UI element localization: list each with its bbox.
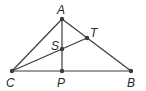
point-S xyxy=(60,47,64,51)
triangle-figure: ABCPST xyxy=(0,0,146,91)
label-S: S xyxy=(51,39,59,53)
label-P: P xyxy=(57,76,65,90)
geometry-diagram: ABCPST xyxy=(0,0,146,91)
point-A xyxy=(60,17,64,21)
label-B: B xyxy=(127,76,135,90)
label-T: T xyxy=(90,26,99,40)
label-A: A xyxy=(56,3,65,17)
segment-CT xyxy=(12,38,87,71)
point-C xyxy=(10,69,14,73)
point-T xyxy=(85,36,89,40)
point-P xyxy=(60,69,64,73)
point-B xyxy=(129,69,133,73)
label-C: C xyxy=(6,76,15,90)
